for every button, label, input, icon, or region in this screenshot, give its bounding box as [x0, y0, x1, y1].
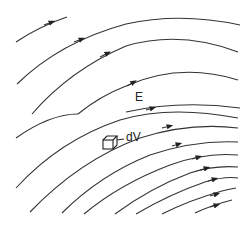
field-line-2 — [17, 18, 240, 84]
field-diagram — [0, 0, 252, 228]
field-lines — [16, 17, 240, 214]
field-line-6 — [16, 112, 238, 188]
field-label-e: E — [135, 91, 143, 103]
field-line-8 — [62, 142, 238, 213]
field-line-11 — [136, 178, 238, 215]
volume-element-label: dV — [126, 131, 141, 143]
field-line-4 — [78, 72, 238, 114]
field-line-12 — [162, 188, 236, 214]
field-line-5 — [16, 114, 78, 138]
cube-icon — [103, 136, 124, 149]
field-line-1 — [16, 17, 67, 42]
